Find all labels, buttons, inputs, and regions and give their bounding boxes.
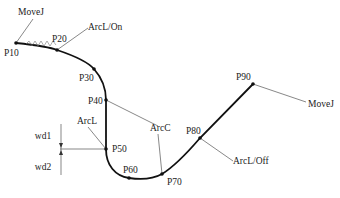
point-marker-p60 xyxy=(127,176,131,180)
point-marker-p30 xyxy=(92,67,96,71)
point-label-p70: P70 xyxy=(167,177,182,187)
point-marker-p90 xyxy=(251,82,255,86)
dimension-wd1: wd1 xyxy=(35,131,52,141)
annotation-arcl-off: ArcL/Off xyxy=(233,156,270,166)
point-label-p50: P50 xyxy=(112,144,127,154)
annotation-arcl: ArcL xyxy=(77,116,97,126)
point-marker-p80 xyxy=(198,136,202,140)
point-marker-p10 xyxy=(14,41,18,45)
point-label-p30: P30 xyxy=(79,73,94,83)
weld-path xyxy=(16,43,253,179)
annotation-arcc: ArcC xyxy=(150,123,171,133)
annotation-movej-start: MoveJ xyxy=(18,7,44,17)
leader-line-movej-end xyxy=(253,84,306,102)
diagram-canvas: P10P20P30P40P50P60P70P80P90MoveJArcL/OnA… xyxy=(0,0,340,198)
point-label-p40: P40 xyxy=(88,96,103,106)
leader-line-movej-start xyxy=(16,19,33,43)
leader-line-arcc xyxy=(158,134,162,174)
arrow-down-icon xyxy=(59,143,63,148)
point-label-p20: P20 xyxy=(52,34,67,44)
point-label-p60: P60 xyxy=(123,165,138,175)
point-marker-p50 xyxy=(104,147,108,151)
welding-path-diagram: P10P20P30P40P50P60P70P80P90MoveJArcL/OnA… xyxy=(0,0,340,198)
point-marker-p40 xyxy=(104,98,108,102)
point-label-p90: P90 xyxy=(236,72,251,82)
point-marker-p70 xyxy=(160,172,164,176)
point-label-p80: P80 xyxy=(186,126,201,136)
point-marker-p20 xyxy=(55,48,59,52)
dimension-wd2: wd2 xyxy=(35,162,52,172)
annotation-movej-end: MoveJ xyxy=(308,99,334,109)
leader-line-arcl xyxy=(88,127,106,149)
annotation-arcl-on: ArcL/On xyxy=(88,22,123,32)
point-label-p10: P10 xyxy=(4,48,19,58)
leader-line-arcl-off xyxy=(200,138,233,161)
arrow-up-icon xyxy=(59,150,63,155)
